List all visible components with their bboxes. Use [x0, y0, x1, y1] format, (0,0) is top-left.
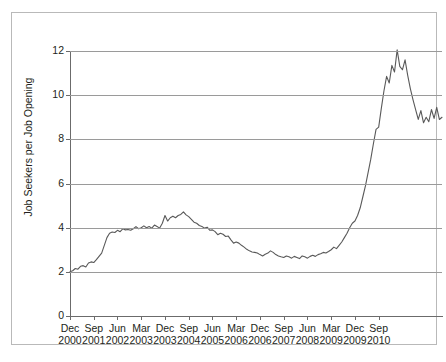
x-tick-mark: [70, 316, 71, 320]
x-tick-mark: [212, 316, 213, 320]
y-tick-label: 12: [42, 45, 64, 56]
y-axis-title: Job Seekers per Job Opening: [22, 47, 34, 247]
x-axis-line: [70, 316, 443, 317]
y-tick-label: 6: [42, 178, 64, 189]
x-tick-label-year: 2010: [359, 334, 399, 346]
x-tick-mark: [117, 316, 118, 320]
x-tick-mark: [165, 316, 166, 320]
x-tick-mark: [355, 316, 356, 320]
y-tick-label: 10: [42, 89, 64, 100]
x-tick-mark: [331, 316, 332, 320]
gridline: [70, 184, 442, 185]
y-tick-mark: [66, 228, 70, 229]
y-tick-mark: [66, 95, 70, 96]
chart-figure: 024681012 Job Seekers per Job Opening De…: [11, 12, 437, 345]
x-tick-mark: [284, 316, 285, 320]
y-tick-label: 0: [42, 310, 64, 321]
x-tick-mark: [307, 316, 308, 320]
y-tick-mark: [66, 139, 70, 140]
y-tick-label: 2: [42, 266, 64, 277]
x-tick-mark: [379, 316, 380, 320]
x-tick-label: Sep2010: [359, 322, 399, 346]
x-tick-mark: [189, 316, 190, 320]
x-axis-tick-labels: Dec2000Sep2001Jun2002Mar2003Dec2003Sep20…: [70, 322, 443, 356]
x-tick-label-month: Sep: [359, 322, 399, 334]
y-tick-label: 4: [42, 222, 64, 233]
gridline: [70, 51, 442, 52]
y-tick-mark: [66, 272, 70, 273]
plot-area: [70, 51, 442, 316]
x-tick-mark: [260, 316, 261, 320]
y-tick-label: 8: [42, 133, 64, 144]
gridline: [70, 95, 442, 96]
gridline: [70, 272, 442, 273]
gridline: [70, 139, 442, 140]
x-tick-mark: [141, 316, 142, 320]
x-tick-mark: [94, 316, 95, 320]
y-tick-mark: [66, 184, 70, 185]
y-tick-mark: [66, 51, 70, 52]
y-axis-tick-labels: 024681012: [38, 13, 64, 346]
gridline: [70, 228, 442, 229]
x-tick-mark: [236, 316, 237, 320]
